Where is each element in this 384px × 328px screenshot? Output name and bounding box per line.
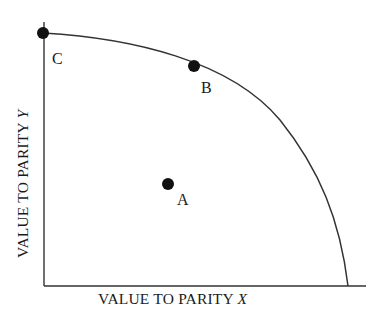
x-axis-title-text: VALUE TO PARITY	[98, 290, 237, 307]
x-axis-title: VALUE TO PARITY X	[98, 290, 247, 308]
point-b-label: B	[201, 79, 212, 96]
point-b-marker	[188, 60, 200, 72]
point-a-marker	[162, 178, 174, 190]
point-a-label: A	[177, 191, 189, 208]
y-axis-title: VALUE TO PARITY Y	[14, 110, 32, 258]
frontier-diagram: C B A	[0, 0, 384, 328]
point-c-label: C	[52, 50, 63, 67]
x-axis-variable: X	[237, 290, 247, 307]
y-axis-variable: Y	[14, 110, 31, 119]
y-axis-title-text: VALUE TO PARITY	[14, 119, 31, 258]
point-c-marker	[37, 27, 49, 39]
